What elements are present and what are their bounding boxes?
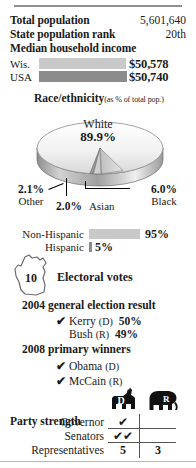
income-amount-usa: $50,740 (129, 71, 168, 83)
total-population-row: Total population 5,601,640 (10, 14, 186, 26)
party-strength-column-divider (139, 414, 140, 458)
hispanic-percent-non-hispanic: 95% (145, 228, 169, 240)
income-row-label: Wis. (10, 58, 36, 70)
candidate-name: Bush (69, 328, 93, 340)
top-divider (14, 5, 182, 7)
pie-callout-black: 6.0% Black (140, 183, 188, 207)
hispanic-bar-row-non-hispanic: Non-Hispanic 95% (0, 228, 196, 240)
pie-slice-label-other: Other (8, 195, 54, 207)
leader-line-asian (66, 178, 67, 196)
primary-2008-row-obama: ✔ Obama (D) (56, 359, 119, 374)
donkey-icon: D (110, 387, 140, 413)
party-strength-row-label-senators: Senators (0, 430, 104, 443)
candidate-percent: 49% (115, 328, 138, 340)
hispanic-bar-row-hispanic: Hispanic 5% (0, 241, 196, 253)
median-household-income-label: Median household income (10, 42, 136, 54)
state-population-rank-row: State population rank 20th (10, 28, 186, 40)
pie-slice-value-other: 2.1% (8, 183, 54, 195)
hispanic-row-label: Non-Hispanic (12, 228, 84, 240)
election-2004-row-bush: Bush (R) 49% (56, 328, 138, 340)
primary-2008-heading: 2008 primary winners (22, 343, 131, 355)
candidate-percent: 50% (119, 315, 142, 327)
state-population-rank-label: State population rank (10, 28, 115, 40)
pie-slice-value-black: 6.0% (140, 183, 188, 195)
total-population-label: Total population (10, 14, 89, 26)
income-amount-wisconsin: $50,578 (129, 58, 168, 70)
party-strength-rule-1 (108, 428, 176, 429)
candidate-party: (D) (105, 361, 119, 372)
electoral-votes-count: 10 (20, 271, 42, 286)
candidate-name: Kerry (69, 315, 96, 327)
income-bar-row-usa: USA $50,740 (0, 71, 196, 83)
median-income-heading-row: Median household income (10, 42, 136, 54)
check-icon: ✔ (56, 314, 69, 329)
income-bar-fill-wisconsin (39, 58, 126, 69)
check-icon: ✔ (56, 359, 69, 374)
elephant-letter: R (163, 394, 170, 404)
income-bar-fill-usa (39, 71, 127, 82)
leader-line-black-horiz (85, 188, 130, 189)
bottom-divider (0, 461, 196, 462)
pie-slice-label-black: Black (140, 195, 188, 207)
party-strength-row-label-representatives: Representatives (0, 444, 104, 457)
pie-slice-label-asian: Asian (89, 200, 115, 212)
candidate-party: (D) (99, 316, 113, 327)
pie-callout-asian: 2.0% Asian (56, 196, 144, 214)
hispanic-percent-hispanic: 5% (95, 241, 113, 253)
party-strength-cell-representatives-d: 5 (108, 444, 138, 457)
elephant-icon: R (148, 389, 180, 414)
hispanic-bar-fill-hispanic (89, 242, 92, 252)
electoral-votes-label: Electoral votes (57, 270, 133, 285)
party-strength-rule-2 (108, 442, 176, 443)
candidate-name: McCain (69, 375, 106, 387)
income-row-label: USA (10, 71, 36, 83)
candidate-name: Obama (69, 360, 102, 372)
party-strength-cell-representatives-r: 3 (143, 444, 173, 457)
pie-slice-value-asian: 2.0% (56, 200, 82, 212)
hispanic-row-label: Hispanic (12, 241, 84, 253)
check-icon: ✔ (56, 374, 69, 389)
race-ethnicity-subheading: (as % of total pop.) (104, 95, 164, 104)
state-infographic-panel: Total population 5,601,640 State populat… (0, 0, 196, 468)
race-ethnicity-heading-text: Race/ethnicity (34, 92, 104, 104)
hispanic-bar-fill-non-hispanic (89, 229, 140, 239)
candidate-party: (R) (109, 376, 122, 387)
pie-slice-value-white: 89.9% (56, 129, 140, 145)
pie-callout-other: 2.1% Other (8, 183, 54, 207)
election-2004-row-kerry: ✔ Kerry (D) 50% (56, 314, 142, 329)
race-ethnicity-heading: Race/ethnicity(as % of total pop.) (34, 92, 164, 104)
party-strength-row-label-governor: Governor (0, 416, 104, 429)
total-population-value: 5,601,640 (140, 14, 186, 26)
candidate-party: (R) (96, 329, 109, 340)
income-bar-row-wisconsin: Wis. $50,578 (0, 58, 196, 70)
election-2004-heading: 2004 general election result (22, 299, 156, 311)
donkey-letter: D (118, 395, 125, 406)
state-population-rank-value: 20th (166, 28, 186, 40)
